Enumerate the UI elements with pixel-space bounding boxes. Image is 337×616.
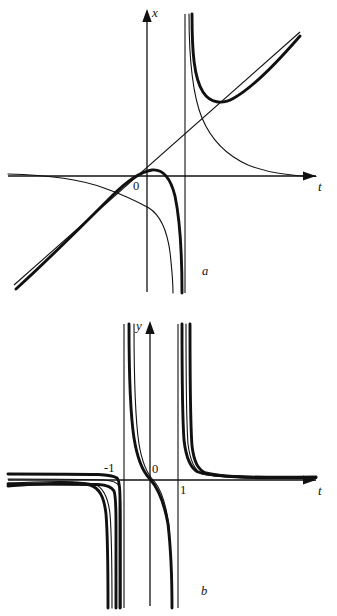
panel-b-tick-label-minus-one: -1 <box>104 462 114 475</box>
panel-b-branch-left-inner <box>8 484 116 608</box>
panel-a: x t 0 a <box>0 0 337 300</box>
panel-b-branch-right-outer <box>182 324 316 477</box>
panel-b-branch-lower-left <box>8 483 108 608</box>
panel-b-plot <box>0 300 337 616</box>
panel-a-branch-lower-left <box>16 170 182 293</box>
panel-a-branch-upper-right <box>192 14 300 102</box>
panel-b-tick-label-one: 1 <box>180 484 186 497</box>
panel-b-axis-label-y: y <box>136 319 142 332</box>
panel-b-label: b <box>201 585 207 598</box>
panel-b-branch-lower-left-thin <box>8 482 112 608</box>
panel-a-plot <box>0 0 337 300</box>
panel-b: y t -1 0 1 b <box>0 300 337 616</box>
panel-b-branch-right-thin <box>186 324 316 479</box>
panel-a-axis-label-t: t <box>318 180 322 193</box>
panel-b-branch-right-inner <box>190 324 316 478</box>
panel-a-origin-label: 0 <box>133 180 139 193</box>
panel-b-axis-label-t: t <box>318 484 322 497</box>
panel-a-axis-label-x: x <box>152 6 158 19</box>
panel-b-branch-left-outer <box>8 474 120 608</box>
panel-a-oblique-asymptote <box>14 32 300 285</box>
figure-container: x t 0 a <box>0 0 337 616</box>
panel-b-origin-label: 0 <box>152 463 158 476</box>
panel-a-label: a <box>202 265 208 278</box>
panel-a-x-axis <box>142 9 151 292</box>
